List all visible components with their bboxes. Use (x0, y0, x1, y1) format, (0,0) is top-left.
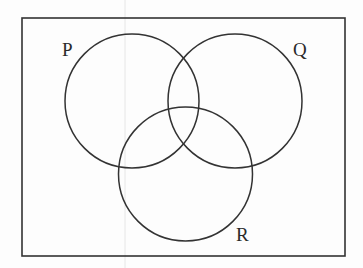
set-r-label: R (236, 225, 249, 244)
set-q-circle (168, 34, 302, 168)
set-p-circle (65, 34, 199, 168)
venn-diagram-graphic (0, 0, 363, 268)
venn-diagram: P Q R (0, 0, 363, 268)
set-q-label: Q (293, 40, 307, 59)
set-p-label: P (62, 40, 73, 59)
set-r-circle (119, 107, 253, 241)
